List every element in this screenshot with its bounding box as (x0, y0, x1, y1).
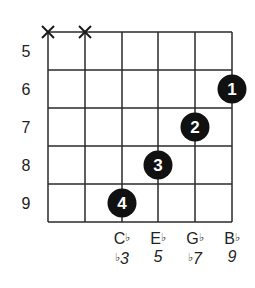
finger-number: 1 (227, 80, 236, 99)
finger-number: 4 (117, 194, 127, 213)
interval-degree: 9 (228, 248, 237, 265)
fret-number-8: 8 (16, 157, 36, 175)
finger-dot-2: 2 (181, 113, 210, 142)
finger-number: 2 (190, 118, 199, 137)
interval-label: ♭7 (177, 248, 213, 268)
note-label: E♭ (140, 228, 176, 248)
interval-label: ♭3 (104, 248, 140, 268)
fret-number-6: 6 (16, 81, 36, 99)
finger-dot-4: 4 (108, 189, 137, 218)
flat-icon: ♭ (125, 231, 130, 243)
note-label: G♭ (177, 228, 213, 248)
finger-dot-3: 3 (144, 151, 173, 180)
interval-degree: 3 (120, 250, 129, 267)
note-letter: B (224, 230, 235, 247)
finger-dot-1: 1 (218, 75, 247, 104)
note-letter: E (150, 230, 161, 247)
note-letter: C (114, 230, 126, 247)
flat-icon: ♭ (161, 231, 166, 243)
flat-icon: ♭ (199, 231, 204, 243)
fret-number-9: 9 (16, 195, 36, 213)
finger-number: 3 (153, 156, 162, 175)
fret-number-7: 7 (16, 119, 36, 137)
fret-number-5: 5 (16, 43, 36, 61)
chord-diagram: 1 2 3 4 5 6 7 8 9 C♭ E♭ G♭ B♭ ♭3 5 ♭7 9 (0, 0, 255, 288)
interval-label: 9 (214, 248, 250, 266)
interval-degree: 5 (154, 248, 163, 265)
interval-label: 5 (140, 248, 176, 266)
interval-degree: 7 (193, 250, 202, 267)
note-label: B♭ (214, 228, 250, 248)
note-letter: G (186, 230, 198, 247)
flat-icon: ♭ (235, 231, 240, 243)
note-label: C♭ (104, 228, 140, 248)
